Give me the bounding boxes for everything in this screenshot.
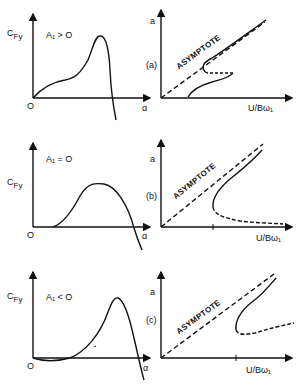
panel-b-right-axes bbox=[161, 140, 292, 227]
panel-a-left-axes bbox=[33, 14, 150, 98]
panel-b-origin: O bbox=[27, 231, 34, 240]
panel-b-asymptote bbox=[161, 144, 263, 227]
panel-a-tag: (a) bbox=[146, 61, 157, 70]
panel-a-right-xlabel: U/Bω₁ bbox=[248, 104, 273, 113]
panel-c-origin: O bbox=[27, 362, 34, 371]
panel-c-asymptote bbox=[161, 274, 274, 358]
panel-b-right-xlabel: U/Bω₁ bbox=[256, 234, 281, 243]
panel-a-origin: O bbox=[27, 102, 34, 111]
panel-a-stable-branch-low bbox=[188, 73, 233, 97]
panel-c-cfy-curve bbox=[33, 298, 144, 380]
panel-c-left-axes bbox=[33, 272, 150, 358]
panel-b-condition: A₁ = O bbox=[46, 155, 72, 164]
panel-a-right-ylabel: a bbox=[150, 17, 155, 26]
panel-c-ylabel: CFy bbox=[7, 292, 22, 304]
panel-b-ylabel: CFy bbox=[7, 178, 22, 190]
panel-a-asymptote bbox=[161, 22, 265, 98]
panel-b-cfy-curve bbox=[53, 183, 142, 250]
panel-c-right-ylabel: a bbox=[150, 288, 155, 297]
panel-c-condition: A₁ < O bbox=[46, 293, 72, 302]
panel-b-unstable-branch bbox=[213, 207, 283, 224]
panel-c-xlabel: α bbox=[143, 364, 148, 373]
panel-c-stable-branch bbox=[236, 278, 276, 330]
panel-c-right-axes bbox=[161, 272, 292, 358]
panel-a-right-axes bbox=[161, 10, 292, 98]
panel-c-tag: (c) bbox=[146, 316, 157, 325]
panel-b-right-ylabel: a bbox=[150, 155, 155, 164]
panel-c-right-xlabel: U/Bω₁ bbox=[246, 366, 271, 375]
panel-a-xlabel: α bbox=[142, 104, 147, 113]
panel-a-ylabel: CFy bbox=[7, 29, 22, 41]
panel-a-condition: A₁ > O bbox=[46, 31, 72, 40]
panel-b-tag: (b) bbox=[146, 192, 157, 201]
panel-a-cfy-curve bbox=[33, 36, 116, 120]
panel-c-unstable-branch bbox=[236, 323, 294, 334]
panel-b-xlabel: α bbox=[142, 232, 147, 241]
